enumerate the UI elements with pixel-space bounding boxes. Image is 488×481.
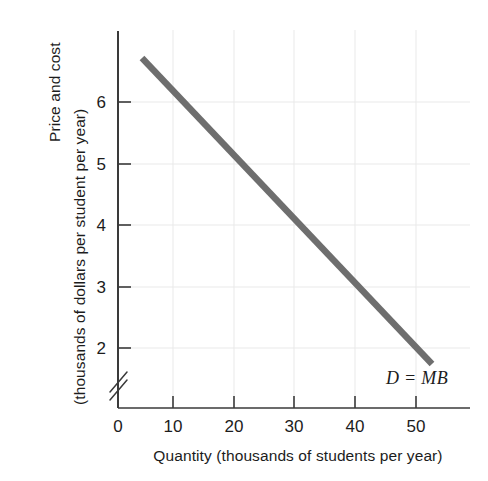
- plot-area: [0, 0, 488, 481]
- chart-figure: Price and cost (thousands of dollars per…: [0, 0, 488, 481]
- x-axis-title: Quantity (thousands of students per year…: [118, 447, 478, 465]
- y-tick-label-3: 3: [84, 279, 106, 296]
- y-tick-label-5: 5: [84, 156, 106, 173]
- x-tick-label-20: 20: [219, 418, 249, 435]
- y-tick-label-2: 2: [84, 340, 106, 357]
- curve-label-demand-marginal-benefit: D = MB: [386, 368, 448, 389]
- y-tick-label-6: 6: [84, 94, 106, 111]
- demand-marginal-benefit-curve: [142, 58, 432, 364]
- y-axis-ticks: [118, 102, 131, 348]
- x-tick-label-50: 50: [401, 418, 431, 435]
- x-tick-label-0: 0: [103, 418, 133, 435]
- x-tick-label-40: 40: [340, 418, 370, 435]
- x-axis-ticks: [173, 396, 416, 408]
- x-tick-label-30: 30: [279, 418, 309, 435]
- x-tick-label-10: 10: [158, 418, 188, 435]
- y-tick-label-4: 4: [84, 217, 106, 234]
